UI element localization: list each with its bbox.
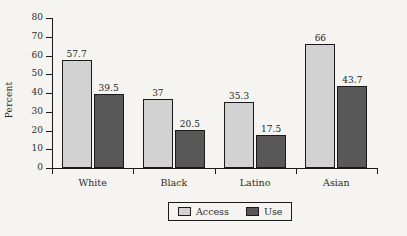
y-tick: 40 [46,93,52,94]
bar-access-white[interactable]: 57.7 [62,60,92,168]
chart-legend: Access Use [168,202,292,221]
legend-item-use[interactable]: Use [246,206,283,217]
y-tick-label: 80 [32,12,43,22]
x-tick [133,168,134,174]
bar-chart: Percent 01020304050607080 WhiteBlackLati… [0,0,407,236]
y-axis-line [52,18,53,168]
x-tick [215,168,216,174]
legend-swatch-access-icon [178,207,191,216]
bar-value-label: 37 [152,88,163,98]
bar-value-label: 17.5 [261,124,281,134]
y-tick-label: 30 [32,106,43,116]
bar-access-black[interactable]: 37 [143,99,173,168]
bar-use-black[interactable]: 20.5 [175,130,205,168]
x-category-label: Asian [323,177,350,188]
y-tick-label: 50 [32,68,43,78]
bar-use-white[interactable]: 39.5 [94,94,124,168]
plot-area: 01020304050607080 WhiteBlackLatinoAsian … [52,18,377,168]
x-tick [377,168,378,174]
legend-label-use: Use [264,206,283,217]
x-category-label: Latino [240,177,271,188]
y-axis-label: Percent [4,62,14,138]
y-tick: 10 [46,149,52,150]
bar-value-label: 39.5 [99,83,119,93]
bar-use-asian[interactable]: 43.7 [337,86,367,168]
bar-access-latino[interactable]: 35.3 [224,102,254,168]
y-tick: 60 [46,56,52,57]
y-tick-label: 20 [32,125,43,135]
y-tick-label: 60 [32,50,43,60]
bar-access-asian[interactable]: 66 [305,44,335,168]
legend-label-access: Access [196,206,229,217]
bar-value-label: 43.7 [342,75,362,85]
bar-use-latino[interactable]: 17.5 [256,135,286,168]
x-category-label: Black [160,177,187,188]
y-tick: 70 [46,37,52,38]
bar-value-label: 66 [315,33,326,43]
y-tick-label: 0 [37,162,43,172]
y-tick: 20 [46,131,52,132]
bar-value-label: 20.5 [180,119,200,129]
y-tick: 80 [46,18,52,19]
x-tick [296,168,297,174]
bar-value-label: 35.3 [229,91,249,101]
y-tick: 50 [46,74,52,75]
y-tick-label: 70 [32,31,43,41]
y-tick-label: 10 [32,143,43,153]
x-tick [52,168,53,174]
x-category-label: White [78,177,106,188]
legend-swatch-use-icon [246,207,259,216]
legend-item-access[interactable]: Access [178,206,229,217]
y-tick: 30 [46,112,52,113]
y-tick-label: 40 [32,87,43,97]
bar-value-label: 57.7 [67,49,87,59]
